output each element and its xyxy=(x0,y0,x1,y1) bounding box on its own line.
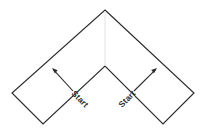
start-label-left: Start xyxy=(70,88,91,109)
chevron-diagram: Start Start xyxy=(0,0,205,136)
figure-container: Start Start xyxy=(0,0,205,136)
chevron-outline xyxy=(12,10,194,124)
